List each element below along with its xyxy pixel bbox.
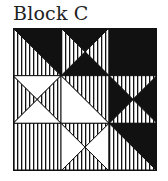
cell-r0c2 [109,28,157,76]
quilt-block [13,28,157,171]
quilt-block-diagram [13,28,157,171]
cell-r2c0 [13,123,61,171]
block-title: Block C [13,2,89,24]
